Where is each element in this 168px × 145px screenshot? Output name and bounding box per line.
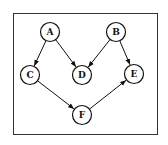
node-label: E <box>131 69 138 79</box>
node-f: F <box>73 106 92 125</box>
edge-f-e <box>89 80 126 109</box>
dag-diagram: ABCDEF <box>0 0 168 145</box>
node-label: D <box>78 70 86 80</box>
node-label: F <box>79 110 86 120</box>
nodes-group: ABCDEF <box>21 23 144 125</box>
edge-b-e <box>120 41 130 65</box>
node-a: A <box>41 23 60 42</box>
edge-c-f <box>38 81 75 109</box>
node-label: C <box>26 70 33 80</box>
node-c: C <box>21 66 40 85</box>
node-label: A <box>46 27 55 37</box>
node-label: B <box>112 27 120 37</box>
node-b: B <box>107 23 126 42</box>
edge-a-c <box>34 41 46 66</box>
edge-b-d <box>88 39 110 67</box>
edge-a-d <box>56 40 76 67</box>
node-e: E <box>125 65 144 84</box>
node-d: D <box>73 66 92 85</box>
